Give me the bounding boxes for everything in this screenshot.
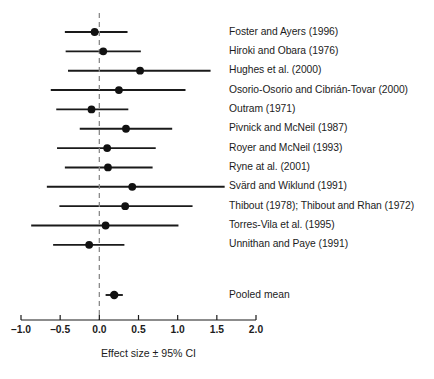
study-label: Hughes et al. (2000) (229, 64, 321, 75)
x-tick-label: 2.0 (249, 324, 263, 335)
x-axis-title: Effect size ± 95% CI (101, 347, 196, 359)
study-label: Outram (1971) (229, 103, 295, 114)
x-tick-label: 1.5 (210, 324, 224, 335)
effect-marker (121, 202, 129, 210)
forest-plot (0, 0, 434, 379)
study-label: Osorio-Osorio and Cibrián-Tovar (2000) (229, 84, 408, 95)
effect-marker (115, 86, 123, 94)
study-label: Royer and McNeil (1993) (229, 142, 342, 153)
x-tick-label: 1.0 (170, 324, 184, 335)
confidence-interval-lines (31, 32, 224, 295)
effect-marker (88, 106, 96, 114)
effect-marker (85, 241, 93, 249)
study-label: Ryne at al. (2001) (229, 161, 310, 172)
study-label: Hiroki and Obara (1976) (229, 45, 338, 56)
study-label: Pivnick and McNeil (1987) (229, 122, 347, 133)
effect-marker (99, 47, 107, 55)
pooled-mean-label: Pooled mean (229, 289, 290, 300)
study-label: Foster and Ayers (1996) (229, 26, 338, 37)
study-label: Torres-Vila et al. (1995) (229, 219, 335, 230)
effect-marker (104, 164, 112, 172)
effect-marker (103, 144, 111, 152)
effect-marker (122, 125, 130, 133)
x-tick-label: –0.5 (50, 324, 70, 335)
effect-marker (128, 183, 136, 191)
effect-marker (102, 222, 110, 230)
study-label: Thibout (1978); Thibout and Rhan (1972) (229, 200, 414, 211)
effect-marker (136, 67, 144, 75)
x-axis (21, 315, 256, 320)
x-tick-label: –1.0 (11, 324, 31, 335)
x-tick-label: 0.0 (92, 324, 106, 335)
study-label: Svärd and Wiklund (1991) (229, 180, 347, 191)
pooled-effect-marker (110, 291, 118, 299)
study-label: Unnithan and Paye (1991) (229, 238, 348, 249)
effect-marker (91, 28, 99, 36)
x-tick-label: 0.5 (131, 324, 145, 335)
effect-size-markers (85, 28, 144, 299)
